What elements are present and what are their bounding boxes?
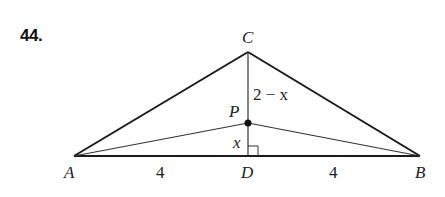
label-C: C [242, 28, 254, 47]
segment-CB [248, 52, 420, 156]
point-P-dot [245, 120, 252, 127]
label-PC-length: 2 − x [253, 85, 289, 104]
segment-AC [74, 52, 248, 156]
label-A: A [63, 163, 75, 182]
label-P: P [228, 102, 239, 121]
label-B: B [415, 163, 426, 182]
label-DB-length: 4 [329, 163, 338, 182]
label-AD-length: 4 [156, 163, 165, 182]
triangle-diagram: C P A D B 4 4 2 − x x [0, 0, 445, 197]
right-angle-marker [248, 146, 258, 156]
label-DP-length: x [232, 133, 241, 152]
label-D: D [240, 163, 254, 182]
